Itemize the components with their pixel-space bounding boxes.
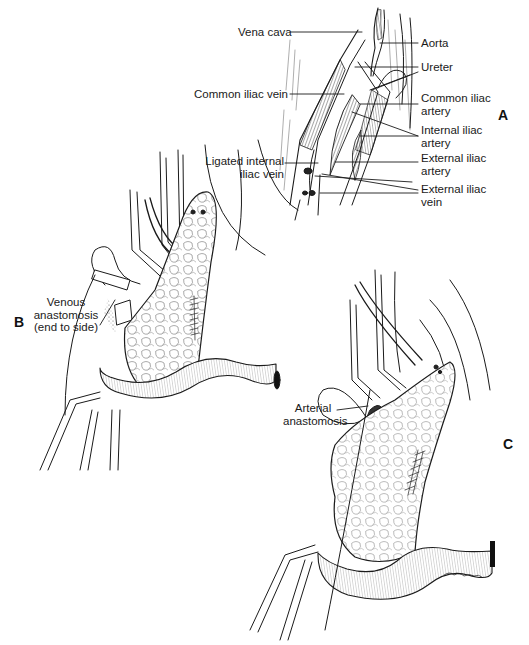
label-line: Arterial [283,402,343,415]
label-line: artery [421,105,491,118]
label-ureter: Ureter [421,61,453,74]
panel-letter-a: A [498,107,508,123]
label-line: vein [421,196,486,209]
label-line: artery [421,165,486,178]
label-line: artery [421,137,482,150]
label-common-iliac-vein: Common iliac vein [190,88,288,101]
label-line: iliac vein [200,168,284,181]
label-external-iliac-artery: External iliac artery [421,152,486,177]
label-external-iliac-vein: External iliac vein [421,183,486,208]
label-line: Internal iliac [421,124,482,137]
figure-canvas: Vena cava Aorta Ureter Common iliac vein… [0,0,529,645]
label-line: anastomosis [283,415,343,428]
label-line: anastomosis [32,309,100,322]
panel-letter-b: B [14,314,24,330]
label-arterial-anastomosis: Arterial anastomosis [283,402,343,427]
label-vena-cava: Vena cava [238,26,288,39]
label-line: Venous [32,296,100,309]
label-venous-anastomosis: Venous anastomosis (end to side) [32,296,100,334]
label-common-iliac-artery: Common iliac artery [421,92,491,117]
label-line: (end to side) [32,321,100,334]
label-ligated-internal-iliac-vein: Ligated internal iliac vein [200,155,284,180]
label-line: Ligated internal [200,155,284,168]
label-line: External iliac [421,152,486,165]
panel-letter-c: C [503,436,513,452]
label-line: External iliac [421,183,486,196]
label-aorta: Aorta [421,37,449,50]
panel-c-art [250,270,495,640]
label-line: Common iliac [421,92,491,105]
label-internal-iliac-artery: Internal iliac artery [421,124,482,149]
